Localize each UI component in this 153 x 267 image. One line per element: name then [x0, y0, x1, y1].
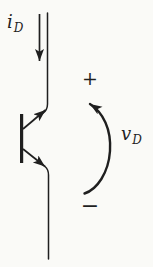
diagram-canvas: iD + vD − — [0, 0, 153, 267]
lower-branch-arrow — [23, 149, 45, 167]
device-bar — [20, 114, 23, 163]
current-label: iD — [7, 13, 23, 34]
voltage-subscript: D — [132, 133, 142, 147]
voltage-minus-sign: − — [81, 195, 99, 217]
voltage-plus-sign: + — [82, 69, 98, 88]
voltage-label: vD — [121, 125, 142, 146]
upper-branch-arrow — [23, 110, 46, 129]
current-subscript: D — [14, 21, 24, 35]
voltage-symbol: v — [121, 123, 131, 144]
bottom-wire — [45, 167, 49, 260]
top-wire — [43, 13, 48, 114]
current-symbol: i — [7, 11, 13, 32]
voltage-arc-arrow — [85, 104, 111, 194]
